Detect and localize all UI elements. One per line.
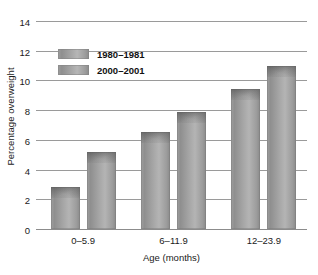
- bar: [51, 187, 80, 229]
- bar-top-bevel: [177, 112, 206, 123]
- bar-top-bevel: [87, 152, 116, 163]
- bar: [177, 112, 206, 229]
- y-axis-title-text: Percentage overweight: [5, 67, 16, 165]
- bar: [267, 66, 296, 229]
- bar: [87, 152, 116, 229]
- bar-chart: Percentage overweight 02468101214 0–5.96…: [0, 0, 318, 275]
- y-tick-label: 0: [25, 225, 30, 236]
- y-tick-label: 2: [25, 195, 30, 206]
- legend-label: 2000–2001: [97, 65, 145, 76]
- x-tick-label: 0–5.9: [51, 235, 116, 246]
- legend-label: 1980–1981: [97, 49, 145, 60]
- bar-group: [231, 21, 296, 229]
- y-axis-title: Percentage overweight: [0, 0, 20, 232]
- legend: 1980–19812000–2001: [58, 47, 145, 79]
- x-tick-label: 12–23.9: [231, 235, 296, 246]
- legend-swatch: [58, 49, 89, 59]
- bar: [141, 132, 170, 229]
- x-tick-label: 6–11.9: [141, 235, 206, 246]
- legend-item: 2000–2001: [58, 63, 145, 77]
- bar-top-bevel: [51, 187, 80, 198]
- y-tick-label: 14: [19, 17, 30, 28]
- bar-top-bevel: [267, 66, 296, 77]
- x-axis-title: Age (months): [36, 252, 307, 263]
- bar-top-bevel: [231, 89, 260, 100]
- gridline: 0: [36, 229, 307, 230]
- bar-top-bevel: [141, 132, 170, 143]
- legend-swatch: [58, 65, 89, 75]
- y-tick-label: 10: [19, 76, 30, 87]
- legend-item: 1980–1981: [58, 47, 145, 61]
- bar-group: [141, 21, 206, 229]
- y-tick-label: 12: [19, 46, 30, 57]
- y-tick-label: 6: [25, 135, 30, 146]
- y-tick-label: 8: [25, 106, 30, 117]
- y-tick-label: 4: [25, 165, 30, 176]
- bar: [231, 89, 260, 229]
